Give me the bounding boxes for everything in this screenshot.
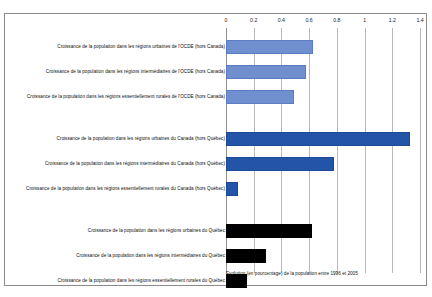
category-label-4: Croissance de la population dans les rég… xyxy=(45,157,225,171)
category-label-5: Croissance de la population dans les rég… xyxy=(26,182,225,196)
bar-4[interactable] xyxy=(226,157,334,171)
bar-3[interactable] xyxy=(226,132,410,146)
gridline-1.2 xyxy=(392,28,393,273)
bar-2[interactable] xyxy=(226,90,294,104)
gridline-0.8 xyxy=(337,28,338,273)
gridline-1.4 xyxy=(420,28,421,273)
bar-6[interactable] xyxy=(226,224,312,238)
plot-area xyxy=(226,28,420,273)
category-label-3: Croissance de la population dans les rég… xyxy=(56,132,225,146)
bar-0[interactable] xyxy=(226,40,313,54)
bar-5[interactable] xyxy=(226,182,238,196)
x-axis-tick-labels: 0 0.2 0.4 0.6 0.8 1 1.2 1.4 xyxy=(226,15,420,27)
x-tick-label-5: 1 xyxy=(363,15,366,26)
x-axis-caption: Evolution (en pourcentage) de la populat… xyxy=(226,271,426,276)
x-tick-label-3: 0.6 xyxy=(305,15,312,26)
x-tick-label-7: 1.4 xyxy=(416,15,423,26)
x-tick-label-0: 0 xyxy=(225,15,228,26)
gridline-1 xyxy=(365,28,366,273)
x-tick-label-6: 1.2 xyxy=(389,15,396,26)
x-tick-label-4: 0.8 xyxy=(333,15,340,26)
category-labels: Croissance de la population dans les rég… xyxy=(5,28,225,273)
x-tick-label-2: 0.4 xyxy=(278,15,285,26)
bar-8[interactable] xyxy=(226,274,247,288)
bar-7[interactable] xyxy=(226,249,266,263)
category-label-2: Croissance de la population dans les rég… xyxy=(27,90,225,104)
category-label-7: Croissance de la population dans les rég… xyxy=(76,249,225,263)
x-tick-label-1: 0.2 xyxy=(250,15,257,26)
bar-1[interactable] xyxy=(226,65,306,79)
category-label-8: Croissance de la population dans les rég… xyxy=(57,274,225,288)
category-label-1: Croissance de la population dans les rég… xyxy=(46,65,225,79)
category-label-0: Croissance de la population dans les rég… xyxy=(57,40,225,54)
chart-frame: 0 0.2 0.4 0.6 0.8 1 1.2 1.4 Croissance d… xyxy=(4,13,427,286)
category-label-6: Croissance de la population dans les rég… xyxy=(88,224,225,238)
